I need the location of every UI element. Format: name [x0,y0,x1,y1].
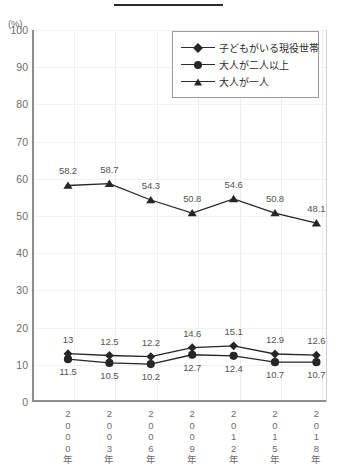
top-rule-decoration [114,4,223,6]
x-tick-char: 2 [227,408,241,420]
x-tick-char: 年 [61,454,75,466]
x-tick-char: 5 [268,443,282,455]
x-tick-char: 2 [309,408,323,420]
data-point-label: 12.6 [307,335,325,346]
legend-item-label: 大人が一人 [215,74,269,89]
x-tick-char: 年 [309,454,323,466]
data-point-label: 13 [63,334,73,345]
x-tick-char: 0 [61,431,75,443]
chart-container: (%) 1009080706050403020100 1312.512.214.… [0,0,338,466]
legend-item[interactable]: 大人が一人 [181,73,312,90]
x-tick-char: 0 [144,420,158,432]
data-point-label: 54.3 [142,180,160,191]
x-tick-char: 2 [144,408,158,420]
data-point-label: 58.7 [100,164,118,175]
x-tick-char: 6 [144,443,158,455]
legend-item-label: 子どもがいる現役世帯 [215,40,319,55]
circle-marker-icon [181,59,215,71]
x-axis-tick-label: 2003年 [102,408,116,466]
legend-item[interactable]: 大人が二人以上 [181,56,312,73]
data-point-marker [271,350,280,359]
triangle-marker-icon [181,76,215,88]
x-tick-char: 0 [268,420,282,432]
data-point-label: 15.1 [225,326,243,337]
x-tick-char: 0 [102,420,116,432]
y-axis-tick-label: 80 [2,99,28,109]
x-tick-char: 2 [61,408,75,420]
y-axis-tick-label: 90 [2,62,28,72]
data-point-marker [105,351,114,360]
x-tick-char: 3 [102,443,116,455]
x-tick-char: 年 [227,454,241,466]
data-point-label: 12.7 [183,362,201,373]
data-point-label: 48.1 [307,203,325,214]
x-tick-char: 0 [185,420,199,432]
x-tick-char: 年 [144,454,158,466]
x-tick-char: 0 [102,431,116,443]
data-point-marker [146,196,155,203]
data-point-label: 54.6 [225,179,243,190]
x-tick-char: 2 [185,408,199,420]
x-tick-char: 0 [61,420,75,432]
x-axis-tick-label: 2018年 [309,408,323,466]
x-axis-tick-label: 2000年 [61,408,75,466]
x-tick-char: 0 [185,431,199,443]
x-tick-char: 1 [268,431,282,443]
x-tick-char: 0 [309,420,323,432]
data-point-marker [271,358,279,366]
data-point-label: 11.5 [59,366,76,377]
x-tick-char: 2 [268,408,282,420]
data-point-marker [312,358,320,366]
data-point-label: 12.5 [100,336,118,347]
data-point-marker [147,360,155,368]
data-point-label: 10.2 [142,371,160,382]
y-axis-tick-label: 50 [2,211,28,221]
data-point-marker [105,359,113,367]
x-tick-char: 8 [309,443,323,455]
data-point-marker [230,352,238,360]
x-tick-char: 1 [227,431,241,443]
y-axis-tick-label: 30 [2,285,28,295]
y-axis-tick-label: 10 [2,360,28,370]
x-tick-char: 年 [185,454,199,466]
x-tick-char: 0 [61,443,75,455]
y-axis-tick-label: 60 [2,174,28,184]
x-axis-tick-label: 2009年 [185,408,199,466]
legend-item-label: 大人が二人以上 [215,57,289,72]
y-axis-tick-label: 20 [2,323,28,333]
chart-legend: 子どもがいる現役世帯 大人が二人以上 大人が一人 [172,31,319,98]
x-tick-char: 9 [185,443,199,455]
data-point-label: 10.7 [266,369,284,380]
data-point-marker [229,195,238,202]
x-tick-char: 年 [102,454,116,466]
data-point-label: 14.6 [183,328,201,339]
data-point-marker [229,341,238,350]
data-point-label: 10.7 [307,369,325,380]
legend-item[interactable]: 子どもがいる現役世帯 [181,39,312,56]
data-point-marker [270,209,279,216]
data-point-marker [188,351,196,359]
x-tick-char: 2 [102,408,116,420]
y-axis-tick-label: 40 [2,248,28,258]
data-point-label: 50.8 [266,193,284,204]
y-axis-tick-label: 100 [2,25,28,35]
x-tick-char: 2 [227,443,241,455]
data-point-marker [64,355,72,363]
y-axis-tick-label: 0 [2,397,28,407]
data-point-label: 12.4 [225,363,243,374]
diamond-marker-icon [181,42,215,54]
x-tick-char: 0 [144,431,158,443]
x-tick-char: 年 [268,454,282,466]
x-axis-tick-label: 2006年 [144,408,158,466]
data-point-label: 12.2 [142,337,160,348]
data-point-label: 58.2 [59,165,77,176]
x-axis-tick-label: 2015年 [268,408,282,466]
x-tick-char: 0 [227,420,241,432]
y-axis-tick-label: 70 [2,137,28,147]
data-point-label: 12.9 [266,334,284,345]
x-tick-char: 1 [309,431,323,443]
data-point-label: 10.5 [100,370,118,381]
data-point-label: 50.8 [183,193,201,204]
x-axis-tick-label: 2012年 [227,408,241,466]
data-point-marker [146,352,155,361]
